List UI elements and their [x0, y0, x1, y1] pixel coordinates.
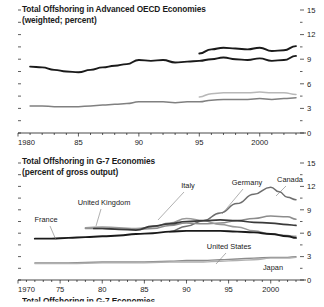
chart-svg-advanced-oecd: 1980859095200003691215 [0, 0, 324, 152]
series-annotation-label: France [34, 215, 57, 224]
y-axis-tick-label: 15 [307, 159, 315, 168]
chart-svg-g7: 19707580859095200003691215ItalyGermanyCa… [0, 152, 324, 294]
x-axis-tick-label: 90 [135, 138, 143, 147]
x-axis-tick-label: 85 [74, 138, 82, 147]
x-axis-tick-label: 85 [140, 285, 148, 294]
y-axis-tick-label: 9 [307, 206, 311, 215]
y-axis-tick-label: 0 [307, 129, 311, 138]
y-axis-tick-label: 6 [307, 80, 311, 89]
x-axis-tick-label: 95 [195, 138, 203, 147]
chart-panel-advanced-oecd: Total Offshoring in Advanced OECD Econom… [0, 0, 324, 152]
x-axis-tick-label: 90 [182, 285, 190, 294]
chart-panel-next-cutoff: Total Offshoring in G-7 Economies [0, 296, 324, 307]
x-axis-tick-label: 75 [56, 285, 64, 294]
y-axis-tick-label: 6 [307, 229, 311, 238]
y-axis-tick-label: 3 [307, 104, 311, 113]
y-axis-tick-label: 15 [307, 6, 315, 15]
chart-panel-g7: Total Offshoring in G-7 Economies (perce… [0, 152, 324, 294]
y-axis-tick-label: 9 [307, 55, 311, 64]
x-axis-tick-label: 2000 [262, 285, 279, 294]
panel-title-next-cutoff: Total Offshoring in G-7 Economies [22, 296, 155, 306]
y-axis-tick-label: 0 [307, 276, 311, 285]
data-series-line [30, 56, 296, 72]
plot-area-advanced-oecd: 1980859095200003691215 [0, 0, 324, 152]
x-axis-tick-label: 1980 [18, 138, 35, 147]
annotation-leader-line [158, 192, 184, 220]
figure-root: Total Offshoring in Advanced OECD Econom… [0, 0, 324, 307]
series-annotation-label: United States [207, 242, 252, 251]
data-series-line [199, 92, 296, 97]
x-axis-tick-label: 1970 [18, 285, 35, 294]
annotation-leader-line [222, 189, 243, 214]
data-series-line [30, 98, 296, 107]
y-axis-tick-label: 3 [307, 252, 311, 261]
series-annotation-label: Italy [181, 181, 195, 190]
data-series-line [35, 231, 296, 239]
x-axis-tick-label: 95 [224, 285, 232, 294]
annotation-leader-line [216, 253, 226, 264]
y-axis-tick-label: 12 [307, 30, 315, 39]
series-annotation-label: United Kingdom [78, 198, 131, 207]
series-annotation-label: Canada [277, 175, 304, 184]
series-annotation-label: Germany [232, 178, 263, 187]
annotation-leader-line [96, 209, 101, 226]
x-axis-tick-label: 80 [98, 285, 106, 294]
data-series-line [170, 187, 296, 231]
plot-area-g7: 19707580859095200003691215ItalyGermanyCa… [0, 152, 324, 294]
x-axis-tick-label: 2000 [251, 138, 268, 147]
y-axis-tick-label: 12 [307, 182, 315, 191]
series-annotation-label: Japan [263, 263, 283, 272]
data-series-line [199, 46, 296, 53]
